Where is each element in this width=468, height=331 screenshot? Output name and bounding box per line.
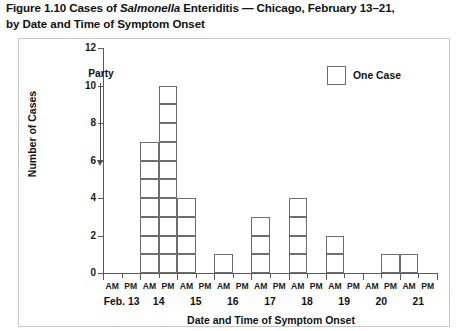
- down-arrow-head-icon: [97, 160, 103, 166]
- case-square: [381, 254, 400, 273]
- case-square: [177, 254, 196, 273]
- case-square: [159, 236, 178, 255]
- x-tick-half-day: [307, 274, 308, 278]
- x-tick-half-day: [122, 274, 123, 278]
- case-square: [177, 236, 196, 255]
- epi-curve-plot: Number of Cases 024681012 AMPMAMPMAMPMAM…: [0, 0, 468, 331]
- x-tick-day-boundary: [177, 274, 178, 280]
- party-annotation-label: Party: [78, 68, 124, 79]
- case-square: [140, 161, 159, 180]
- x-tick-half-day: [418, 274, 419, 278]
- case-square: [177, 198, 196, 217]
- x-day-label: 21: [388, 296, 448, 308]
- y-tick-label-text: 0: [74, 268, 96, 278]
- case-square: [140, 179, 159, 198]
- x-tick-day-boundary: [363, 274, 364, 280]
- case-square: [214, 254, 233, 273]
- x-time-label: PM: [416, 281, 440, 291]
- x-tick-day-boundary: [400, 274, 401, 280]
- case-square: [140, 254, 159, 273]
- case-square: [140, 198, 159, 217]
- x-tick-day-boundary: [214, 274, 215, 280]
- case-square: [159, 254, 178, 273]
- x-tick-half-day: [270, 274, 271, 278]
- case-square: [326, 254, 345, 273]
- case-square: [251, 254, 270, 273]
- x-tick-day-boundary: [140, 274, 141, 280]
- y-tick-label-text: 2: [74, 231, 96, 241]
- y-axis-title: Number of Cases: [26, 74, 38, 194]
- y-tick: [98, 198, 103, 199]
- case-square: [159, 179, 178, 198]
- down-arrow-icon: [100, 83, 101, 162]
- x-tick-half-day: [381, 274, 382, 278]
- case-square: [289, 254, 308, 273]
- case-square: [140, 217, 159, 236]
- case-square: [159, 104, 178, 123]
- case-square: [159, 86, 178, 105]
- x-tick-day-boundary: [289, 274, 290, 280]
- y-tick-label: 0: [72, 268, 96, 278]
- case-square: [140, 142, 159, 161]
- case-square: [159, 123, 178, 142]
- y-tick-label-text: 12: [74, 43, 96, 53]
- case-square: [159, 198, 178, 217]
- case-square: [159, 161, 178, 180]
- legend: One Case: [327, 66, 401, 85]
- y-tick: [98, 48, 103, 49]
- x-axis-title: Date and Time of Symptom Onset: [104, 314, 438, 326]
- x-tick-day-boundary: [326, 274, 327, 280]
- x-tick-half-day: [196, 274, 197, 278]
- case-square: [289, 236, 308, 255]
- case-square: [289, 217, 308, 236]
- case-square: [289, 198, 308, 217]
- x-tick-half-day: [233, 274, 234, 278]
- one-case-square-icon: [327, 66, 346, 85]
- y-tick-label-text: 4: [74, 193, 96, 203]
- x-tick-half-day: [159, 274, 160, 278]
- case-square: [140, 236, 159, 255]
- legend-label: One Case: [353, 70, 401, 81]
- x-tick-day-boundary: [251, 274, 252, 280]
- case-square: [326, 236, 345, 255]
- y-tick-label: 2: [72, 231, 96, 241]
- x-tick-half-day: [344, 274, 345, 278]
- x-tick-day-boundary: [103, 274, 104, 280]
- party-annotation: Party: [78, 68, 124, 168]
- x-tick-day-boundary: [437, 274, 438, 280]
- case-square: [400, 254, 419, 273]
- y-tick: [98, 236, 103, 237]
- case-square: [177, 217, 196, 236]
- y-tick-label: 12: [72, 43, 96, 53]
- case-square: [159, 142, 178, 161]
- y-tick-label: 4: [72, 193, 96, 203]
- case-square: [251, 236, 270, 255]
- case-square: [159, 217, 178, 236]
- case-square: [251, 217, 270, 236]
